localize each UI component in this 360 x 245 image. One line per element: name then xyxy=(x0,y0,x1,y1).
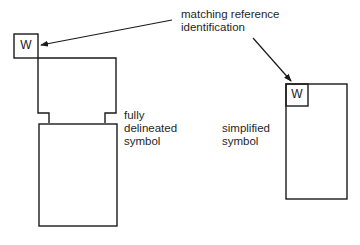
simplified-symbol-label: simplified symbol xyxy=(222,122,270,148)
full-symbol-upper-body xyxy=(38,58,116,123)
diagram-canvas xyxy=(0,0,360,245)
full-symbol-label: fully delineated symbol xyxy=(124,109,177,148)
full-symbol-reference-letter: W xyxy=(14,38,38,52)
arrow-to-full-reference xyxy=(41,20,172,45)
arrow-to-simplified-reference xyxy=(253,38,291,81)
simplified-symbol-reference-letter: W xyxy=(286,87,308,101)
simplified-symbol-body xyxy=(286,84,347,199)
annotation-label: matching reference identification xyxy=(181,8,279,34)
full-symbol-lower-body xyxy=(39,124,117,226)
